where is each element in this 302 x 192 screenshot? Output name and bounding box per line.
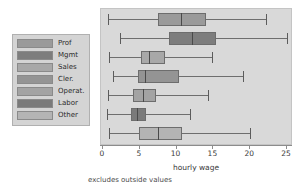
legend-label: Sales xyxy=(58,63,77,72)
legend-swatch xyxy=(17,99,53,108)
upper-whisker-line xyxy=(156,95,208,96)
plot-inner xyxy=(101,9,291,144)
box-rect xyxy=(141,51,165,64)
upper-whisker-line xyxy=(206,19,266,20)
box-rect xyxy=(133,89,156,102)
lower-whisker-line xyxy=(109,57,141,58)
legend-label: Labor xyxy=(58,99,78,108)
x-tick-label: 5 xyxy=(136,149,141,158)
upper-whisker-cap xyxy=(250,128,251,139)
legend-swatch xyxy=(17,75,53,84)
legend-item-sales[interactable]: Sales xyxy=(15,61,87,73)
median-line xyxy=(158,127,159,140)
median-line xyxy=(149,51,150,64)
x-axis: 0510152025 xyxy=(100,145,292,159)
legend-item-mgmt[interactable]: Mgmt xyxy=(15,49,87,61)
legend-item-cler[interactable]: Cler. xyxy=(15,73,87,85)
plot-area xyxy=(100,8,292,145)
median-line xyxy=(137,108,138,121)
box-row-sales xyxy=(101,48,291,67)
lower-whisker-cap xyxy=(113,71,114,82)
lower-whisker-line xyxy=(108,19,158,20)
upper-whisker-line xyxy=(216,38,287,39)
legend-item-other[interactable]: Other xyxy=(15,109,87,121)
chart-footnote: excludes outside values xyxy=(88,176,172,184)
legend-item-prof[interactable]: Prof xyxy=(15,37,87,49)
lower-whisker-line xyxy=(120,38,169,39)
upper-whisker-cap xyxy=(212,52,213,63)
lower-whisker-cap xyxy=(107,109,108,120)
legend-item-labor[interactable]: Labor xyxy=(15,97,87,109)
box-row-operat xyxy=(101,86,291,105)
median-line xyxy=(143,89,144,102)
lower-whisker-cap xyxy=(108,90,109,101)
legend-swatch xyxy=(17,111,53,120)
legend-label: Other xyxy=(58,111,78,120)
x-axis-line xyxy=(100,145,292,146)
legend-swatch xyxy=(17,63,53,72)
x-tick-label: 15 xyxy=(208,149,218,158)
box-rect xyxy=(158,13,206,26)
legend-label: Mgmt xyxy=(58,51,78,60)
legend-label: Operat. xyxy=(58,87,84,96)
x-tick-label: 25 xyxy=(281,149,291,158)
boxplot-figure: ProfMgmtSalesCler.Operat.LaborOther 0510… xyxy=(0,0,302,192)
lower-whisker-cap xyxy=(109,52,110,63)
x-tick-label: 0 xyxy=(100,149,105,158)
x-tick-label: 20 xyxy=(244,149,254,158)
upper-whisker-cap xyxy=(190,109,191,120)
box-row-prof xyxy=(101,10,291,29)
lower-whisker-cap xyxy=(109,128,110,139)
box-row-labor xyxy=(101,105,291,124)
x-tick-label: 10 xyxy=(171,149,181,158)
legend-label: Cler. xyxy=(58,75,74,84)
box-row-cler xyxy=(101,67,291,86)
upper-whisker-cap xyxy=(266,14,267,25)
median-line xyxy=(181,13,182,26)
box-rect xyxy=(131,108,146,121)
upper-whisker-line xyxy=(179,76,243,77)
upper-whisker-cap xyxy=(208,90,209,101)
lower-whisker-line xyxy=(108,95,133,96)
upper-whisker-cap xyxy=(287,33,288,44)
box-row-other xyxy=(101,124,291,143)
median-line xyxy=(145,70,146,83)
box-rect xyxy=(139,127,182,140)
upper-whisker-line xyxy=(182,133,250,134)
legend-label: Prof xyxy=(58,39,72,48)
median-line xyxy=(192,32,193,45)
lower-whisker-line xyxy=(113,76,138,77)
legend-swatch xyxy=(17,87,53,96)
legend-item-operat[interactable]: Operat. xyxy=(15,85,87,97)
box-row-mgmt xyxy=(101,29,291,48)
upper-whisker-cap xyxy=(243,71,244,82)
lower-whisker-line xyxy=(107,114,131,115)
lower-whisker-line xyxy=(109,133,139,134)
x-axis-title: hourly wage xyxy=(100,163,292,172)
legend: ProfMgmtSalesCler.Operat.LaborOther xyxy=(12,34,90,126)
lower-whisker-cap xyxy=(108,14,109,25)
legend-swatch xyxy=(17,39,53,48)
legend-swatch xyxy=(17,51,53,60)
upper-whisker-line xyxy=(165,57,212,58)
lower-whisker-cap xyxy=(120,33,121,44)
upper-whisker-line xyxy=(146,114,190,115)
